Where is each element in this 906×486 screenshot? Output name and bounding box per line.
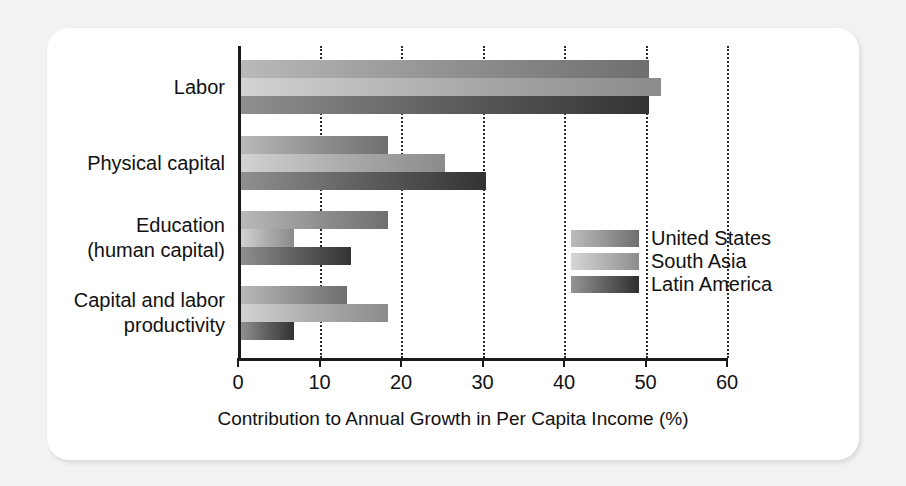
page-background: 0102030405060 LaborPhysical capitalEduca… <box>0 0 906 486</box>
bar-2-1 <box>241 229 294 247</box>
legend-swatch-icon-south-asia <box>571 253 639 270</box>
bar-0-1 <box>241 78 661 96</box>
legend-item-south-asia: South Asia <box>571 251 772 272</box>
legend-item-latin-america: Latin America <box>571 274 772 295</box>
legend-label-latin-america: Latin America <box>651 273 772 296</box>
tick-label-60: 60 <box>716 371 738 394</box>
bar-3-0 <box>241 286 347 304</box>
tick-label-0: 0 <box>232 371 243 394</box>
bar-2-2 <box>241 247 351 265</box>
bar-1-2 <box>241 172 486 190</box>
tick-mark-0 <box>237 358 239 367</box>
bar-3-2 <box>241 322 294 340</box>
legend-item-united-states: United States <box>571 228 772 249</box>
tick-mark-50 <box>645 358 647 367</box>
legend-swatch-icon-united-states <box>571 230 639 247</box>
bar-1-0 <box>241 136 388 154</box>
tick-label-30: 30 <box>471 371 493 394</box>
tick-label-10: 10 <box>308 371 330 394</box>
tick-mark-40 <box>563 358 565 367</box>
category-label-0: Labor <box>174 75 225 100</box>
chart-legend: United States South Asia Latin America <box>571 228 772 297</box>
tick-mark-10 <box>319 358 321 367</box>
bar-3-1 <box>241 304 388 322</box>
bar-0-0 <box>241 60 649 78</box>
bar-group-0 <box>241 60 730 114</box>
category-label-2: Education (human capital) <box>87 213 225 263</box>
x-axis-title: Contribution to Annual Growth in Per Cap… <box>47 408 859 430</box>
grouped-bar-chart: 0102030405060 LaborPhysical capitalEduca… <box>47 28 859 460</box>
tick-label-40: 40 <box>553 371 575 394</box>
bar-group-1 <box>241 136 730 190</box>
plot-area: 0102030405060 <box>238 46 727 358</box>
tick-label-20: 20 <box>390 371 412 394</box>
chart-card: 0102030405060 LaborPhysical capitalEduca… <box>47 28 859 460</box>
category-label-1: Physical capital <box>87 151 225 176</box>
tick-mark-20 <box>400 358 402 367</box>
legend-swatch-icon-latin-america <box>571 276 639 293</box>
tick-label-50: 50 <box>634 371 656 394</box>
tick-mark-60 <box>726 358 728 367</box>
bar-1-1 <box>241 154 445 172</box>
legend-label-south-asia: South Asia <box>651 250 747 273</box>
category-label-3: Capital and labor productivity <box>74 288 225 338</box>
tick-mark-30 <box>482 358 484 367</box>
bar-2-0 <box>241 211 388 229</box>
y-axis-line <box>238 46 241 358</box>
legend-label-united-states: United States <box>651 227 771 250</box>
bar-0-2 <box>241 96 649 114</box>
